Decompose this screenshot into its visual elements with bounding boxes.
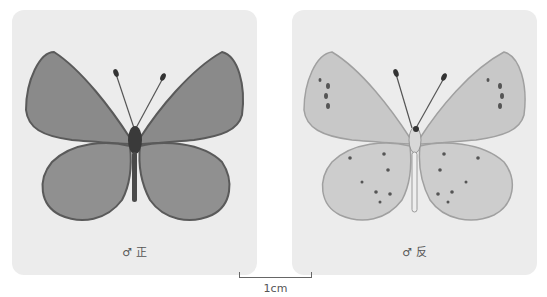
underside-caption: ♂ 反 xyxy=(292,243,537,259)
scale-bar xyxy=(239,272,312,278)
upperside-specimen-panel: ♂ 正 xyxy=(12,10,257,275)
scale-bar-label: 1cm xyxy=(239,282,312,295)
butterfly-underside-image xyxy=(292,10,537,275)
upperside-caption: ♂ 正 xyxy=(12,243,257,259)
butterfly-upperside-image xyxy=(12,10,257,275)
underside-specimen-panel: ♂ 反 xyxy=(292,10,537,275)
